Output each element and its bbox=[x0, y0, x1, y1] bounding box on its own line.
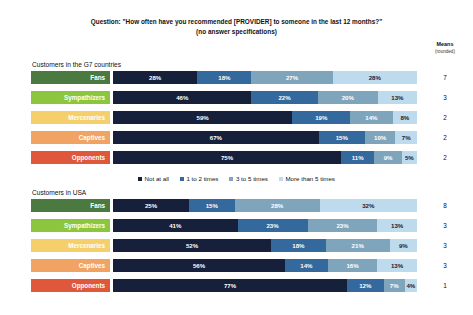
category-label: Sympathizers bbox=[31, 91, 110, 104]
bar-segment: 77% bbox=[113, 279, 347, 292]
legend-item: 1 to 2 times bbox=[180, 175, 218, 182]
legend-label: 1 to 2 times bbox=[186, 175, 218, 182]
bar-segment: 20% bbox=[318, 91, 378, 104]
mean-value: 3 bbox=[420, 262, 470, 269]
page-title: Question: "How often have you recommende… bbox=[0, 17, 473, 36]
bar-segment: 19% bbox=[292, 111, 350, 124]
stacked-bar: 46%22%20%13% bbox=[113, 91, 417, 104]
bar-segment: 18% bbox=[197, 71, 251, 84]
category-label: Mercenaries bbox=[31, 239, 110, 252]
bar-segment: 12% bbox=[347, 279, 383, 292]
mean-value: 3 bbox=[420, 222, 470, 229]
bar-segment: 8% bbox=[393, 111, 417, 124]
bar-segment: 28% bbox=[333, 71, 417, 84]
bar-segment: 59% bbox=[113, 111, 292, 124]
chart-page: Question: "How often have you recommende… bbox=[0, 0, 473, 315]
bar-segment: 7% bbox=[384, 279, 405, 292]
bar-segment: 28% bbox=[113, 71, 197, 84]
panel-rows: Fans28%18%27%28%Sympathizers46%22%20%13%… bbox=[31, 71, 417, 164]
mean-value: 8 bbox=[420, 202, 470, 209]
panel-label: Customers in USA bbox=[32, 188, 417, 197]
bar-segment: 9% bbox=[390, 239, 417, 252]
chart-row: Sympathizers41%23%23%13% bbox=[31, 219, 417, 232]
bar-segment: 13% bbox=[377, 259, 417, 272]
category-label: Captives bbox=[31, 131, 110, 144]
category-label: Opponents bbox=[31, 279, 110, 292]
legend-swatch-icon bbox=[180, 177, 184, 181]
bar-segment: 75% bbox=[113, 151, 341, 164]
bar-segment: 52% bbox=[113, 239, 271, 252]
bar-segment: 56% bbox=[113, 259, 285, 272]
chart-row: Fans28%18%27%28% bbox=[31, 71, 417, 84]
stacked-bar: 77%12%7%4% bbox=[113, 279, 417, 292]
bar-segment: 22% bbox=[251, 91, 317, 104]
category-label: Captives bbox=[31, 259, 110, 272]
bar-segment: 7% bbox=[395, 131, 416, 144]
legend-item: Not at all bbox=[138, 175, 169, 182]
bar-segment: 46% bbox=[113, 91, 251, 104]
bar-segment: 32% bbox=[320, 199, 417, 212]
category-label: Mercenaries bbox=[31, 111, 110, 124]
mean-value: 2 bbox=[420, 154, 470, 161]
legend-label: Not at all bbox=[145, 175, 169, 182]
bar-segment: 9% bbox=[374, 151, 401, 164]
mean-value: 3 bbox=[420, 94, 470, 101]
bar-segment: 5% bbox=[402, 151, 417, 164]
chart-row: Captives56%14%16%13% bbox=[31, 259, 417, 272]
panel-label: Customers in the G7 countries bbox=[32, 60, 417, 69]
legend-label: More than 5 times bbox=[285, 175, 335, 182]
category-label: Sympathizers bbox=[31, 219, 110, 232]
bar-segment: 67% bbox=[113, 131, 319, 144]
bar-segment: 16% bbox=[328, 259, 377, 272]
bar-segment: 23% bbox=[238, 219, 308, 232]
legend-swatch-icon bbox=[279, 177, 283, 181]
legend-swatch-icon bbox=[229, 177, 233, 181]
stacked-bar: 59%19%14%8% bbox=[113, 111, 417, 124]
bar-segment: 25% bbox=[113, 199, 189, 212]
stacked-bar: 75%11%9%5% bbox=[113, 151, 417, 164]
chart-row: Captives67%15%10%7% bbox=[31, 131, 417, 144]
category-label: Fans bbox=[31, 199, 110, 212]
title-line-1: Question: "How often have you recommende… bbox=[0, 17, 473, 27]
mean-value: 2 bbox=[420, 134, 470, 141]
bar-segment: 15% bbox=[319, 131, 365, 144]
stacked-bar: 25%15%28%32% bbox=[113, 199, 417, 212]
chart-legend: Not at all1 to 2 times3 to 5 timesMore t… bbox=[0, 175, 473, 182]
means-header-line-1: Means bbox=[420, 41, 470, 48]
bar-segment: 14% bbox=[285, 259, 328, 272]
bar-segment: 27% bbox=[251, 71, 332, 84]
bar-segment: 13% bbox=[377, 219, 417, 232]
bar-segment: 15% bbox=[189, 199, 235, 212]
panel-usa: Customers in USAFans25%15%28%32%Sympathi… bbox=[31, 188, 417, 292]
legend-swatch-icon bbox=[138, 177, 142, 181]
chart-row: Fans25%15%28%32% bbox=[31, 199, 417, 212]
chart-row: Mercenaries52%18%21%9% bbox=[31, 239, 417, 252]
title-line-2: (no answer specifications) bbox=[0, 27, 473, 37]
stacked-bar: 67%15%10%7% bbox=[113, 131, 417, 144]
bar-segment: 10% bbox=[365, 131, 396, 144]
category-label: Fans bbox=[31, 71, 110, 84]
chart-row: Opponents75%11%9%5% bbox=[31, 151, 417, 164]
mean-value: 3 bbox=[420, 242, 470, 249]
stacked-bar: 41%23%23%13% bbox=[113, 219, 417, 232]
stacked-bar: 52%18%21%9% bbox=[113, 239, 417, 252]
mean-value: 1 bbox=[420, 282, 470, 289]
bar-segment: 41% bbox=[113, 219, 238, 232]
means-header-line-2: (rounded) bbox=[420, 48, 470, 55]
bar-segment: 13% bbox=[378, 91, 417, 104]
category-label: Opponents bbox=[31, 151, 110, 164]
bar-segment: 4% bbox=[405, 279, 417, 292]
bar-segment: 28% bbox=[235, 199, 320, 212]
legend-item: 3 to 5 times bbox=[229, 175, 267, 182]
bar-segment: 14% bbox=[350, 111, 393, 124]
legend-label: 3 to 5 times bbox=[236, 175, 268, 182]
bar-segment: 23% bbox=[308, 219, 378, 232]
chart-row: Sympathizers46%22%20%13% bbox=[31, 91, 417, 104]
mean-value: 2 bbox=[420, 114, 470, 121]
bar-segment: 21% bbox=[326, 239, 390, 252]
legend-item: More than 5 times bbox=[279, 175, 335, 182]
bar-segment: 18% bbox=[271, 239, 326, 252]
bar-segment: 11% bbox=[341, 151, 374, 164]
panel-g7: Customers in the G7 countriesFans28%18%2… bbox=[31, 60, 417, 164]
means-column-header: Means (rounded) bbox=[420, 41, 470, 55]
